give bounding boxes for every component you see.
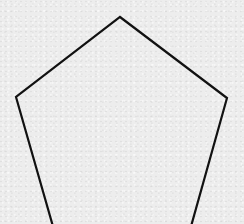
pentagon-figure xyxy=(0,0,244,224)
diagram-canvas: pentagon xyxy=(0,0,244,224)
pentagon-outline xyxy=(16,17,227,224)
